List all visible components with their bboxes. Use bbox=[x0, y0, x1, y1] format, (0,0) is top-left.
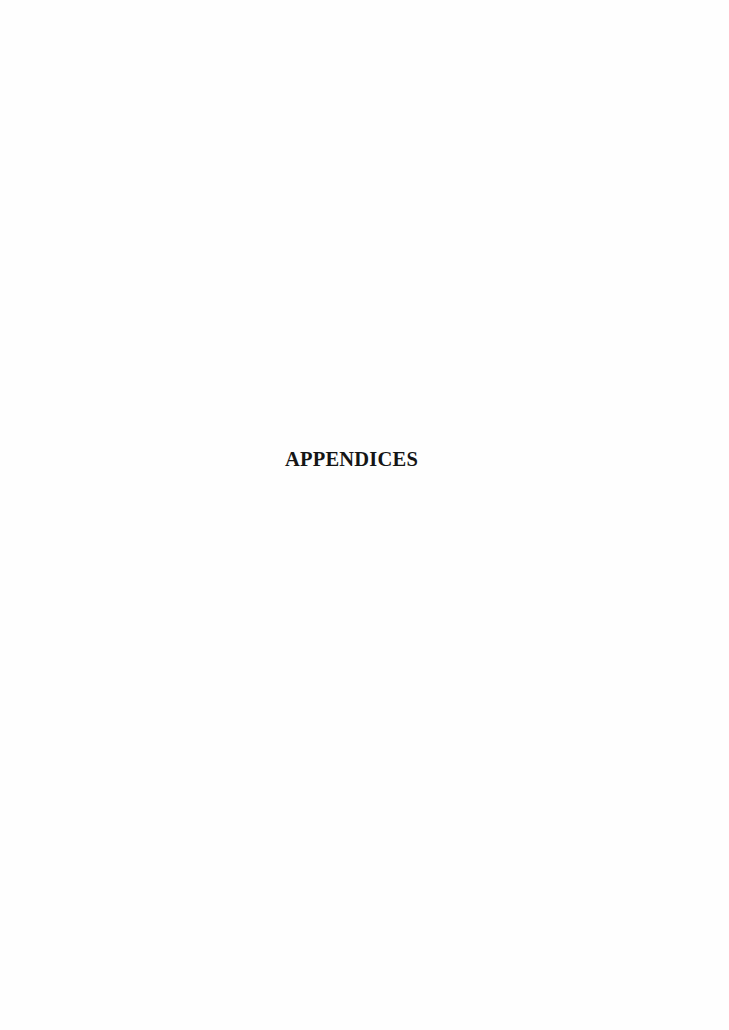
document-page: APPENDICES bbox=[0, 0, 729, 1030]
section-title: APPENDICES bbox=[285, 447, 418, 471]
